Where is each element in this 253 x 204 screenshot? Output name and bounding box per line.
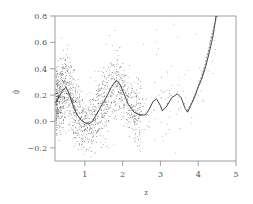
x-axis-ticks: 12345 [82,161,238,179]
estimate-curve [55,16,216,124]
x-tick-label: 5 [233,170,238,179]
x-tick-label: 3 [158,170,163,179]
reference-curve [187,16,217,111]
y-axis-ticks: −0.20.00.20.40.60.8 [28,12,55,153]
chart: 12345 −0.20.00.20.40.60.8 z ĝ [0,0,253,204]
x-tick-label: 1 [82,170,87,179]
y-tick-label: 0.2 [34,91,47,100]
plot-frame [55,16,236,161]
x-tick-label: 2 [120,170,125,179]
y-tick-label: 0.8 [34,12,47,21]
y-tick-label: 0.0 [34,117,47,126]
y-axis-label: ĝ [12,89,20,94]
x-axis-label: z [144,189,148,197]
x-tick-label: 4 [196,170,201,179]
y-tick-label: −0.2 [28,144,47,153]
scatter-points [56,24,216,157]
y-tick-label: 0.4 [34,65,47,74]
y-tick-label: 0.6 [34,38,47,47]
